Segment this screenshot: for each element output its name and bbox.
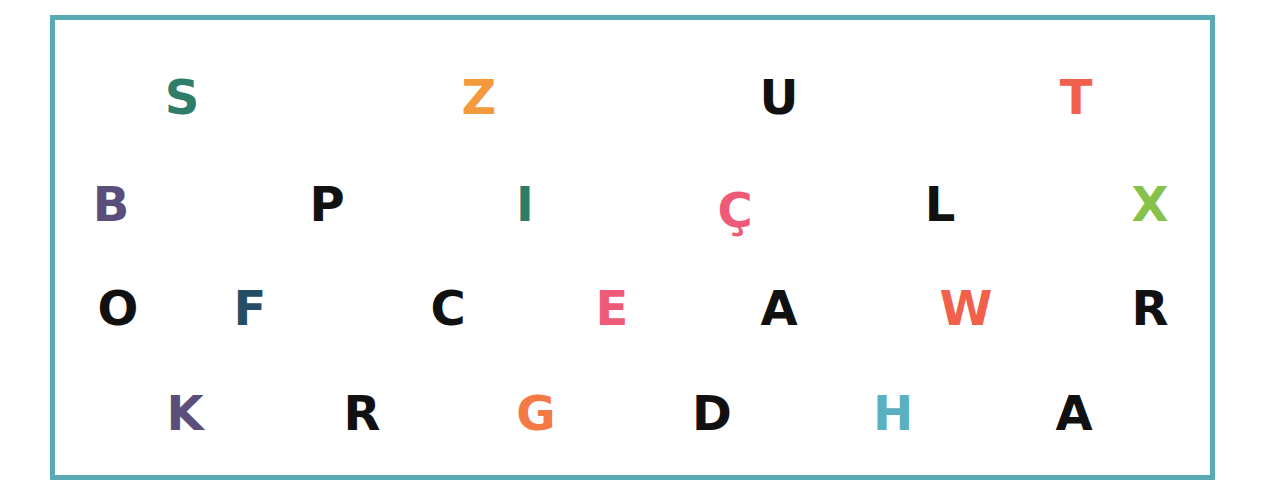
letter: G [516, 389, 555, 437]
letter: K [166, 389, 203, 437]
letter: O [98, 284, 139, 332]
letter: B [93, 180, 130, 228]
letter: W [940, 284, 993, 332]
letter: Z [462, 73, 497, 121]
letter: A [1055, 389, 1092, 437]
letter: P [309, 180, 344, 228]
letter: D [692, 389, 732, 437]
letter: I [516, 180, 534, 228]
letter: A [760, 284, 797, 332]
letter: S [165, 73, 200, 121]
letter: L [925, 180, 956, 228]
letter: Ç [717, 186, 752, 234]
letter: T [1060, 73, 1093, 121]
letter: X [1131, 180, 1168, 228]
letter: U [760, 73, 799, 121]
letter: C [430, 284, 465, 332]
letter: H [873, 389, 913, 437]
letter: E [596, 284, 629, 332]
letter: F [234, 284, 267, 332]
letter: R [1132, 284, 1169, 332]
letter-grid-frame [50, 15, 1215, 480]
letter: R [344, 389, 381, 437]
